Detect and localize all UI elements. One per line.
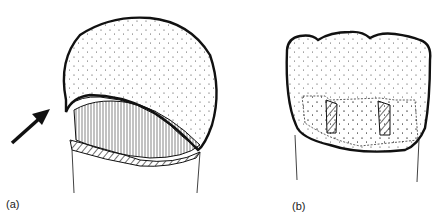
panel-a-label: (a) (6, 198, 19, 210)
panel-b-drawing (287, 32, 431, 182)
panel-a-drawing (12, 18, 217, 193)
figure-drawing (0, 0, 441, 223)
figure-canvas: (a) (b) (0, 0, 441, 223)
panel-b-label: (b) (292, 200, 305, 212)
